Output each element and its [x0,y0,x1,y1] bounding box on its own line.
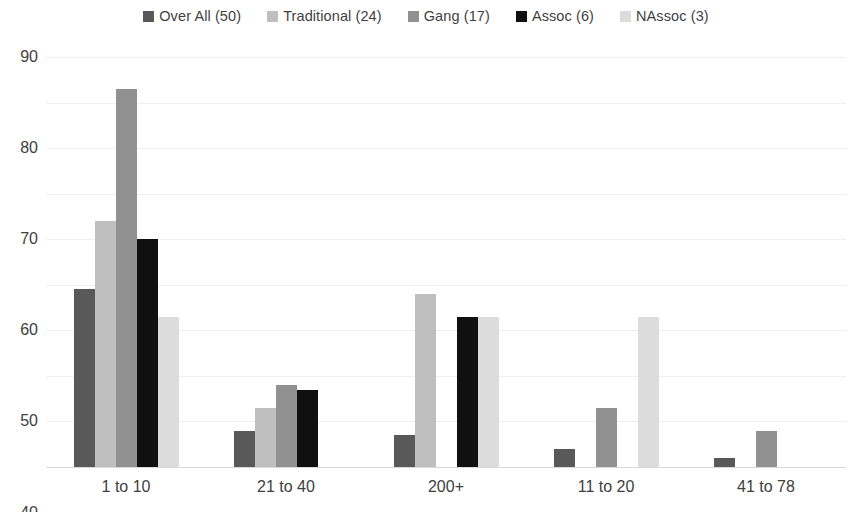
bar[interactable] [415,294,436,467]
bar-group [206,57,366,467]
bar-slot [478,57,499,467]
legend-item-label: NAssoc (3) [636,8,709,24]
legend-swatch-over-all [143,11,154,22]
bar[interactable] [116,89,137,467]
legend-item: Assoc (6) [516,8,594,24]
y-axis-tick-label: 70 [20,230,38,248]
bar-slot [74,57,95,467]
legend-item: Gang (17) [408,8,490,24]
bar-chart-figure: Over All (50)Traditional (24)Gang (17)As… [0,0,852,512]
bar-slot [554,57,575,467]
legend-item-label: Gang (17) [424,8,490,24]
legend-item: Over All (50) [143,8,241,24]
legend-item-label: Traditional (24) [283,8,382,24]
legend-item: NAssoc (3) [620,8,709,24]
bar[interactable] [95,221,116,467]
bar-slot [777,57,798,467]
bar[interactable] [158,317,179,467]
chart-legend: Over All (50)Traditional (24)Gang (17)As… [0,4,852,28]
x-axis-tick-label: 11 to 20 [526,470,686,504]
bar[interactable] [276,385,297,467]
bar-slot [297,57,318,467]
bar-slot [617,57,638,467]
bar-groups [46,57,846,467]
legend-swatch-traditional [267,11,278,22]
bar-slot [276,57,297,467]
bar-slot [756,57,777,467]
bar[interactable] [638,317,659,467]
bar-group [366,57,526,467]
bar-slot [798,57,819,467]
bar-slot [137,57,158,467]
y-axis-tick-label: 80 [20,139,38,157]
x-axis-tick-label: 41 to 78 [686,470,846,504]
bar-slot [318,57,339,467]
y-axis-tick-label: 90 [20,48,38,66]
bar[interactable] [137,239,158,467]
bar-slot [735,57,756,467]
bar-slot [575,57,596,467]
legend-swatch-gang [408,11,419,22]
y-axis-tick-label: 40 [20,504,38,512]
bar[interactable] [596,408,617,467]
bar[interactable] [234,431,255,467]
bar-slot [415,57,436,467]
x-axis-tick-label: 21 to 40 [206,470,366,504]
bar[interactable] [457,317,478,467]
bar[interactable] [297,390,318,467]
bar[interactable] [756,431,777,467]
bar-group [46,57,206,467]
bar[interactable] [255,408,276,467]
legend-item-label: Over All (50) [159,8,241,24]
legend-item: Traditional (24) [267,8,382,24]
x-axis-tick-label: 1 to 10 [46,470,206,504]
bar[interactable] [714,458,735,467]
bar-slot [714,57,735,467]
bar-slot [596,57,617,467]
legend-item-label: Assoc (6) [532,8,594,24]
bar-slot [436,57,457,467]
bar-group [686,57,846,467]
bar-slot [255,57,276,467]
bar-slot [234,57,255,467]
bar-group [526,57,686,467]
bar-slot [457,57,478,467]
y-axis-tick-label: 50 [20,412,38,430]
legend-swatch-assoc [516,11,527,22]
bar[interactable] [74,289,95,467]
bar-slot [638,57,659,467]
bar-slot [158,57,179,467]
bar-slot [394,57,415,467]
y-axis-tick-label: 60 [20,321,38,339]
x-axis-tick-labels: 1 to 1021 to 40200+11 to 2041 to 78 [46,470,846,504]
bar[interactable] [478,317,499,467]
bar[interactable] [394,435,415,467]
bar[interactable] [554,449,575,467]
bar-slot [116,57,137,467]
legend-swatch-nassoc [620,11,631,22]
plot-area: 9080706050403020100 [46,57,846,467]
x-axis-tick-label: 200+ [366,470,526,504]
bar-slot [95,57,116,467]
gridline: 0 [46,467,846,468]
